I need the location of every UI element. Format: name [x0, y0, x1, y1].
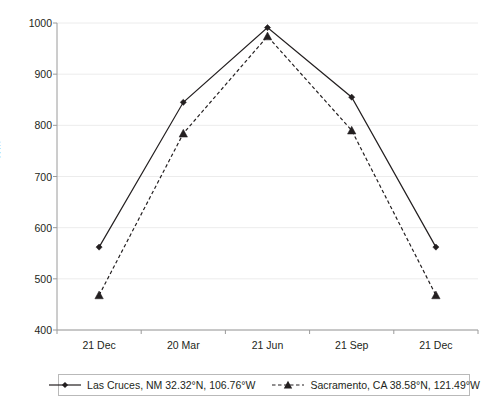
- series-line-1: [99, 28, 436, 248]
- solar-irradiance-line-chart: Wm-2 1000900800700600500400 21 Dec20 Mar…: [0, 0, 495, 407]
- legend-label-1: Las Cruces, NM 32.32°N, 106.76°W: [87, 379, 255, 391]
- data-point-marker: [263, 32, 271, 40]
- gridlines: [57, 23, 478, 330]
- legend-entry-2: Sacramento, CA 38.58°N, 121.49°W: [271, 379, 480, 391]
- x-axis-ticks: [57, 330, 478, 334]
- legend-entry-1: Las Cruces, NM 32.32°N, 106.76°W: [48, 379, 255, 391]
- series-lines: [99, 28, 436, 296]
- data-point-marker: [433, 244, 439, 250]
- legend-key-solid-diamond: [48, 379, 82, 391]
- series-line-2: [99, 36, 436, 295]
- x-axis-tick-label: 20 Mar: [148, 339, 218, 351]
- x-axis-tick-label: 21 Sep: [317, 339, 387, 351]
- chart-legend: Las Cruces, NM 32.32°N, 106.76°WSacramen…: [58, 374, 470, 396]
- x-axis-tick-label: 21 Jun: [233, 339, 303, 351]
- legend-label-2: Sacramento, CA 38.58°N, 121.49°W: [310, 379, 480, 391]
- legend-key-dashed-triangle: [271, 379, 305, 391]
- data-point-marker: [96, 244, 102, 250]
- data-point-marker: [95, 291, 103, 299]
- data-point-marker: [432, 291, 440, 299]
- x-axis-tick-label: 21 Dec: [401, 339, 471, 351]
- x-axis-tick-label: 21 Dec: [64, 339, 134, 351]
